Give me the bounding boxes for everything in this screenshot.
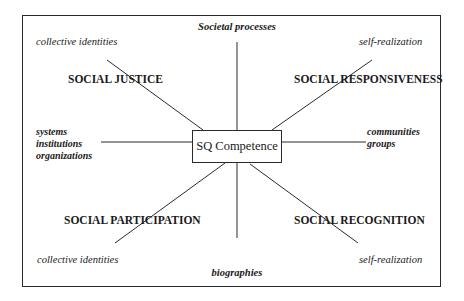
label-right-communities: communities [367, 126, 420, 138]
label-right-groups: groups [367, 138, 420, 150]
center-box: SQ Competence [192, 130, 282, 163]
pole-lower-right: self-realization [359, 255, 422, 266]
label-left-organizations: organizations [36, 150, 92, 162]
line-upper-left [107, 60, 203, 130]
center-label: SQ Competence [196, 139, 278, 154]
pole-upper-left: collective identities [36, 37, 117, 48]
label-bottom: biographies [0, 268, 464, 279]
title-social-participation: SOCIAL PARTICIPATION [64, 215, 201, 227]
pole-lower-left: collective identities [37, 255, 118, 266]
line-lower-left [115, 163, 225, 243]
title-social-justice: SOCIAL JUSTICE [68, 74, 163, 86]
title-social-responsiveness: SOCIAL RESPONSIVENESS [294, 74, 443, 86]
label-left: systems institutions organizations [36, 126, 92, 162]
line-lower-right [250, 164, 358, 243]
label-right: communities groups [367, 126, 420, 150]
label-top: Societal processes [0, 22, 464, 33]
label-left-systems: systems [36, 126, 92, 138]
pole-upper-right: self-realization [359, 37, 422, 48]
label-left-institutions: institutions [36, 138, 92, 150]
title-social-recognition: SOCIAL RECOGNITION [294, 215, 425, 227]
line-upper-right [272, 60, 372, 130]
